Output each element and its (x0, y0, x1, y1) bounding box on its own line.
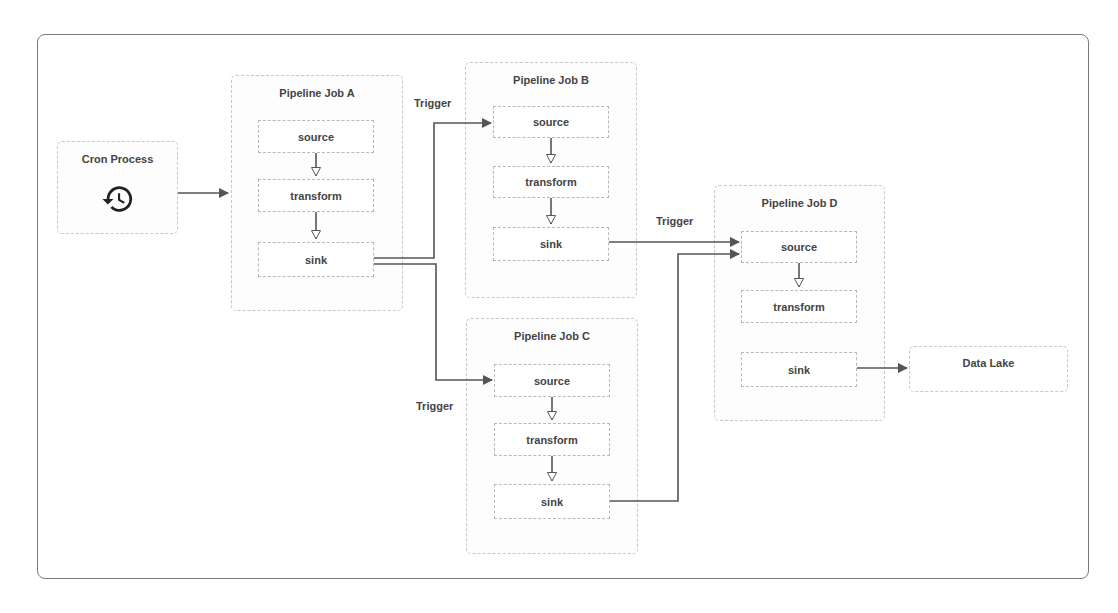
pipeline-job-a-title: Pipeline Job A (232, 87, 402, 99)
job-b-transform: transform (493, 166, 609, 198)
history-clock-icon (101, 182, 135, 216)
pipeline-job-b-title: Pipeline Job B (466, 74, 636, 86)
job-c-transform: transform (494, 423, 610, 456)
edge-label-trigger-a-b: Trigger (414, 97, 451, 109)
pipeline-job-d-title: Pipeline Job D (715, 197, 884, 209)
pipeline-job-c-title: Pipeline Job C (467, 330, 637, 342)
job-d-sink: sink (741, 352, 857, 387)
job-a-transform: transform (258, 179, 374, 212)
data-lake-node: Data Lake (909, 346, 1068, 392)
cron-process-node: Cron Process (57, 141, 178, 234)
job-d-source: source (741, 231, 857, 263)
job-c-source: source (494, 364, 610, 397)
edge-label-trigger-a-c: Trigger (416, 400, 453, 412)
job-a-source: source (258, 120, 374, 153)
edge-label-trigger-b-d: Trigger (656, 215, 693, 227)
job-b-source: source (493, 106, 609, 138)
job-b-sink: sink (493, 227, 609, 261)
job-a-sink: sink (258, 242, 374, 277)
job-c-sink: sink (494, 484, 610, 519)
data-lake-title: Data Lake (910, 357, 1067, 369)
job-d-transform: transform (741, 290, 857, 323)
cron-process-title: Cron Process (58, 153, 177, 165)
